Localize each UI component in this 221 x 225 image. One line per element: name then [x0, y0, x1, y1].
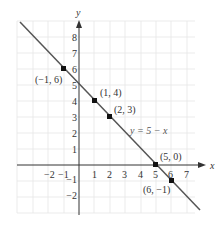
svg-text:1: 1 [92, 169, 97, 180]
point-6-neg1 [169, 178, 174, 183]
svg-text:7: 7 [72, 48, 77, 59]
svg-text:4: 4 [72, 96, 77, 107]
svg-text:2: 2 [107, 169, 112, 180]
svg-text:4: 4 [138, 169, 143, 180]
svg-text:3: 3 [72, 112, 77, 123]
svg-text:5: 5 [153, 169, 158, 180]
x-axis-arrow-icon [198, 162, 206, 168]
svg-text:7: 7 [184, 169, 189, 180]
point-5-0 [153, 162, 158, 167]
point-label: (−1, 6) [35, 74, 62, 86]
x-axis-label: x [209, 160, 215, 171]
svg-text:8: 8 [72, 32, 77, 43]
point-neg1-6 [61, 66, 66, 71]
point-1-4 [92, 98, 97, 103]
equation-label: y = 5 − x [129, 125, 168, 136]
svg-text:−1: −1 [66, 174, 77, 185]
y-tick-labels: 8 7 6 5 4 3 2 1 −1 −2 [66, 32, 77, 201]
svg-text:1: 1 [72, 144, 77, 155]
svg-text:2: 2 [72, 128, 77, 139]
svg-text:6: 6 [72, 64, 77, 75]
point-label: (2, 3) [114, 104, 136, 116]
svg-text:3: 3 [122, 169, 127, 180]
line-chart: x y −2 −1 1 2 3 4 5 6 7 8 7 6 5 4 3 2 1 … [0, 0, 221, 225]
y-axis-label: y [75, 7, 81, 18]
point-label: (6, −1) [143, 184, 170, 196]
svg-text:−2: −2 [44, 169, 55, 180]
point-label: (1, 4) [100, 87, 122, 99]
svg-text:−2: −2 [66, 190, 77, 201]
point-label: (5, 0) [160, 151, 182, 163]
point-2-3 [107, 114, 112, 119]
